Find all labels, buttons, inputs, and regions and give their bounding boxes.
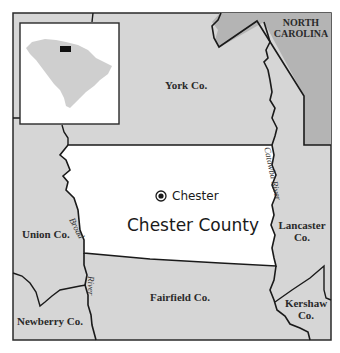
label-north-carolina: NORTH CAROLINA bbox=[270, 17, 332, 39]
chester-county bbox=[60, 145, 276, 266]
york-top-tick bbox=[92, 13, 93, 22]
label-nc-line2: CAROLINA bbox=[270, 28, 332, 39]
chester-seat-marker bbox=[156, 191, 166, 201]
label-union: Union Co. bbox=[22, 228, 70, 240]
label-kershaw: Kershaw Co. bbox=[282, 297, 330, 321]
label-broad-river-lower: River bbox=[86, 276, 96, 296]
label-county-title: Chester County bbox=[127, 215, 259, 235]
label-fairfield: Fairfield Co. bbox=[150, 291, 210, 303]
label-kershaw-line1: Kershaw bbox=[282, 297, 330, 309]
label-newberry: Newberry Co. bbox=[17, 315, 83, 327]
label-lancaster-line2: Co. bbox=[277, 231, 327, 243]
label-county-seat: Chester bbox=[172, 189, 219, 203]
label-nc-line1: NORTH bbox=[270, 17, 332, 28]
chester-highlight bbox=[60, 46, 71, 52]
label-kershaw-line2: Co. bbox=[282, 309, 330, 321]
label-york: York Co. bbox=[165, 79, 207, 91]
label-lancaster-line1: Lancaster bbox=[277, 219, 327, 231]
label-lancaster: Lancaster Co. bbox=[277, 219, 327, 243]
inset-locator-map bbox=[20, 23, 119, 124]
